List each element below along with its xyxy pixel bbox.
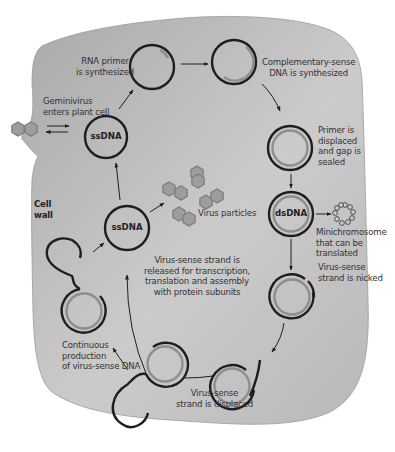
entry-label: Geminivirus enters plant cell [43, 96, 109, 117]
minichromosome-label: Minichromosome that can be translated [316, 227, 387, 259]
dsdna-label: dsDNA [261, 208, 321, 218]
released-label: Virus-sense strand is released for trans… [144, 255, 250, 297]
primer-displaced-label: Primer is displaced and gap is sealed [318, 125, 361, 167]
virus-particles-label: Virus particles [198, 208, 256, 219]
continuous-label: Continuous production of virus-sense DNA [62, 340, 140, 372]
nicked-label: Virus-sense strand is nicked [318, 262, 383, 283]
ssdna-center-label: ssDNA [97, 222, 157, 232]
ssdna-top-label: ssDNA [76, 131, 136, 141]
cell-wall-label: Cell wall [34, 199, 53, 220]
rna-primer-label: RNA primer is synthesized [76, 56, 134, 77]
complementary-label: Complementary-sense DNA is synthesized [262, 57, 355, 78]
displaced-label: Virus-sense strand is displaced [176, 388, 253, 409]
